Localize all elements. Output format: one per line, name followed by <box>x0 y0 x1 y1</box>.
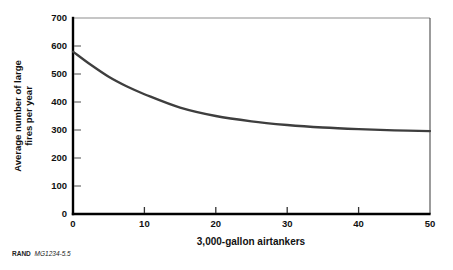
y-tick-label: 600 <box>31 40 67 52</box>
x-axis-title: 3,000-gallon airtankers <box>151 236 351 247</box>
fires-curve <box>73 52 430 132</box>
y-tick-label: 200 <box>31 152 67 164</box>
y-axis-title-line2: fires per year <box>23 46 34 186</box>
x-tick-label: 50 <box>415 218 445 230</box>
y-tick-label: 100 <box>31 180 67 192</box>
fires-vs-airtankers-chart: Average number of large fires per year 3… <box>0 0 453 270</box>
x-tick-label: 20 <box>201 218 231 230</box>
figure-source-label: RAND MG1234-5.5 <box>12 250 71 257</box>
y-tick-label: 400 <box>31 96 67 108</box>
y-tick-label: 300 <box>31 124 67 136</box>
y-tick-label: 500 <box>31 68 67 80</box>
x-tick-label: 0 <box>58 218 88 230</box>
figure-number-text: MG1234-5.5 <box>35 250 71 257</box>
y-tick-label: 700 <box>31 12 67 24</box>
y-axis-title-line1: Average number of large <box>12 46 23 186</box>
x-tick-label: 40 <box>344 218 374 230</box>
x-tick-label: 30 <box>272 218 302 230</box>
y-axis-title: Average number of large fires per year <box>12 46 36 186</box>
rand-brand-text: RAND <box>12 250 31 257</box>
x-tick-label: 10 <box>129 218 159 230</box>
